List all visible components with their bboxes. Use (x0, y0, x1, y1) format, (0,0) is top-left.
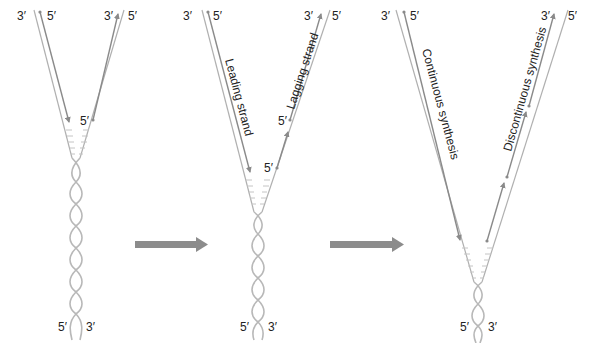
fork-template-strands (34, 10, 124, 158)
label-3-prime-top-left: 3′ (183, 9, 193, 23)
label-5-prime-primer: 5′ (80, 114, 90, 128)
label-5-prime-bottom: 5′ (58, 320, 68, 334)
label-3-prime-bottom: 3′ (268, 320, 278, 334)
label-3-prime-top-left: 3′ (17, 9, 27, 23)
panel-2-replication-fork: 3′ 5′ 3′ 5′ 5′ 5′ 5′ 3′ Leading strand L… (183, 9, 342, 340)
label-3-prime-bottom: 3′ (488, 320, 498, 334)
lagging-strand-label: Lagging strand (284, 31, 322, 111)
label-5-prime-top-left-inner: 5′ (47, 9, 57, 23)
process-arrow-1 (135, 237, 208, 252)
lagging-strand-fragment-2 (275, 132, 288, 170)
double-helix (70, 158, 82, 340)
continuous-synthesis-label: Continuous synthesis (419, 47, 462, 161)
label-5-prime-bottom: 5′ (460, 320, 470, 334)
replication-diagram: 3′ 5′ 3′ 5′ 5′ 5′ 3′ (0, 0, 598, 343)
label-5-prime-top-right: 5′ (128, 9, 138, 23)
okazaki-fragment-3 (485, 183, 504, 243)
process-arrow-2 (330, 237, 404, 252)
label-5-prime-primer-upper: 5′ (278, 114, 288, 128)
new-strand-left (38, 10, 69, 122)
double-helix (252, 212, 264, 340)
discontinuous-synthesis-label: Discontinuous synthesis (500, 25, 549, 153)
panel-1-replication-fork: 3′ 5′ 3′ 5′ 5′ 5′ 3′ (17, 9, 138, 340)
leading-strand-label: Leading strand (222, 57, 256, 137)
label-5-prime-top-right: 5′ (568, 9, 578, 23)
label-3-prime-top-left: 3′ (381, 9, 391, 23)
label-5-prime-bottom: 5′ (240, 320, 250, 334)
label-3-prime-top-right-inner: 3′ (304, 9, 314, 23)
label-5-prime-top-left-inner: 5′ (410, 9, 420, 23)
label-3-prime-top-right-inner: 3′ (541, 9, 551, 23)
label-3-prime-top-right-inner: 3′ (104, 9, 114, 23)
label-5-prime-top-left-inner: 5′ (213, 9, 223, 23)
label-5-prime-top-right: 5′ (332, 9, 342, 23)
label-3-prime-bottom: 3′ (86, 320, 96, 334)
panel-3-replication-fork: 3′ 5′ 3′ 5′ 5′ 3′ Continuous synthesis D… (381, 9, 578, 343)
double-helix (472, 282, 484, 343)
label-5-prime-primer-lower: 5′ (264, 161, 274, 175)
